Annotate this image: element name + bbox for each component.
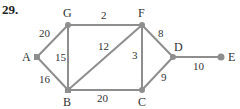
weight-F-B: 12 [98,40,109,52]
node-D [170,54,176,60]
edge-C-D [142,57,173,90]
weight-F-D: 8 [158,27,164,39]
label-A: A [22,50,31,64]
weight-F-C: 3 [132,49,138,61]
label-E: E [228,50,235,64]
node-G [65,22,71,28]
weight-D-E: 10 [193,60,205,72]
label-D: D [174,40,183,54]
weight-C-D: 9 [161,71,167,83]
edge-F-B [68,25,142,90]
weight-A-B: 16 [39,73,51,85]
node-B [65,87,71,93]
weight-A-G: 20 [39,27,51,39]
node-E [218,54,225,61]
node-C [139,87,145,93]
weight-G-F: 2 [101,9,107,21]
node-F [139,22,145,28]
label-F: F [138,6,145,20]
label-G: G [63,6,72,20]
weighted-graph: A G F B C D E 20 16 15 2 12 3 8 20 9 10 [0,0,240,109]
label-C: C [138,95,146,109]
label-B: B [63,95,71,109]
weight-G-B: 15 [55,51,67,63]
weight-B-C: 20 [97,92,109,104]
node-A [34,54,40,60]
